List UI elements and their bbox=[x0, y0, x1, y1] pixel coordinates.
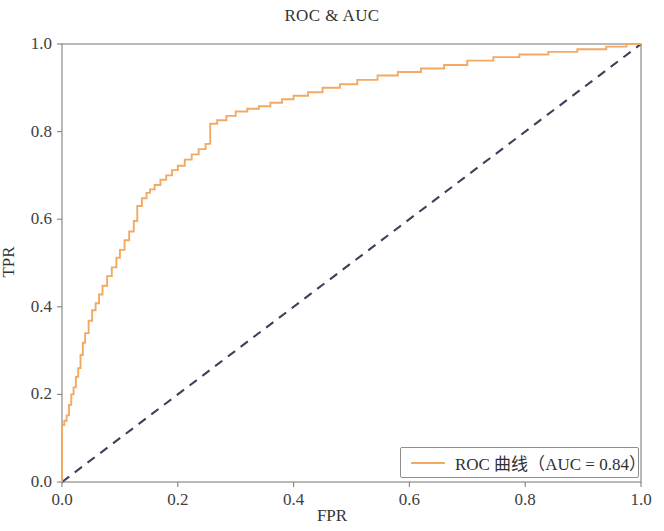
y-tick-label: 0.4 bbox=[0, 297, 52, 317]
legend: ROC 曲线（AUC = 0.84） bbox=[400, 447, 639, 478]
legend-label-roc: ROC 曲线（AUC = 0.84） bbox=[455, 450, 646, 475]
axes-frame bbox=[62, 44, 641, 482]
y-axis-ticks bbox=[57, 44, 62, 482]
x-axis-ticks bbox=[62, 482, 641, 487]
roc-line-swatch bbox=[411, 462, 445, 464]
y-tick-label: 0.0 bbox=[0, 472, 52, 492]
y-axis-label: TPR bbox=[0, 246, 19, 277]
y-tick-label: 1.0 bbox=[0, 34, 52, 54]
chance-diagonal-line bbox=[62, 44, 641, 482]
y-tick-label: 0.2 bbox=[0, 384, 52, 404]
x-axis-label: FPR bbox=[0, 506, 664, 526]
roc-curve-line bbox=[62, 44, 641, 482]
plot-border bbox=[62, 44, 641, 482]
y-tick-label: 0.6 bbox=[0, 209, 52, 229]
roc-auc-figure: ROC & AUC 0.00.20.40.60.81.0 0.00.20.40.… bbox=[0, 0, 664, 531]
y-tick-label: 0.8 bbox=[0, 122, 52, 142]
